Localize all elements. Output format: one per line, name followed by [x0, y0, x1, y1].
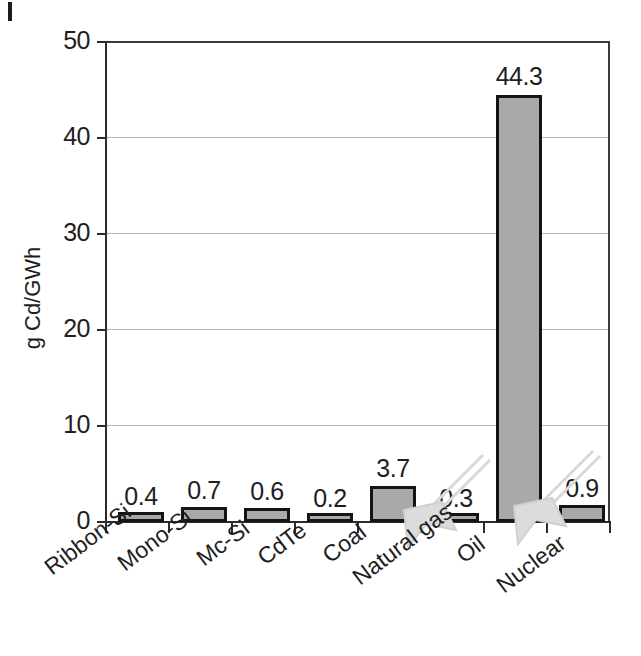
y-tick-10 — [97, 425, 106, 427]
value-label-oil: 44.3 — [474, 63, 564, 89]
bar-mc-si — [244, 508, 290, 522]
x-category-label-cdte: CdTe — [253, 518, 311, 570]
value-label-nuclear: 0.9 — [542, 475, 622, 501]
y-tick-label-50: 50 — [46, 28, 90, 53]
bar-nuclear — [559, 505, 605, 522]
x-tick-8 — [609, 522, 611, 533]
y-tick-label-30: 30 — [46, 220, 90, 245]
y-axis-line — [105, 41, 107, 523]
bar-oil — [496, 95, 542, 522]
x-category-label-mc-si: Mc-Si — [192, 516, 254, 571]
y-tick-20 — [97, 329, 106, 331]
y-tick-50 — [97, 41, 106, 43]
x-tick-7 — [546, 522, 548, 533]
value-label-cdte: 0.2 — [290, 485, 370, 511]
y-tick-40 — [97, 137, 106, 139]
x-tick-6 — [483, 522, 485, 533]
bar-cdte — [307, 513, 353, 522]
x-category-label-oil: Oil — [452, 531, 490, 568]
value-label-coal: 3.7 — [353, 455, 433, 481]
bar-chart: 50 40 30 20 10 0 g Cd/GWh 0.4 0.7 0.6 0.… — [0, 0, 641, 656]
y-tick-label-40: 40 — [46, 124, 90, 149]
bar-coal — [370, 486, 416, 522]
y-tick-label-10: 10 — [46, 412, 90, 437]
y-axis-title: g Cd/GWh — [21, 213, 45, 383]
y-tick-label-20: 20 — [46, 316, 90, 341]
x-category-label-nuclear: Nuclear — [492, 530, 570, 598]
y-tick-30 — [97, 233, 106, 235]
